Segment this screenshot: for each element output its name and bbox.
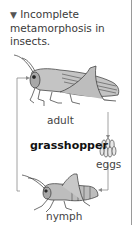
arrowhead-right-icon [26,76,30,80]
nymph-illustration [22,174,98,212]
diagram-title: grasshopper [30,139,108,152]
stage-label-eggs: eggs [96,158,121,170]
arrow-nymph-to-adult [17,78,28,191]
stage-label-nymph: nymph [46,210,82,222]
lifecycle-diagram [0,0,134,225]
stage-label-adult: adult [47,114,74,126]
adult-grasshopper-illustration [14,55,119,106]
arrowhead-left-icon [98,188,102,192]
